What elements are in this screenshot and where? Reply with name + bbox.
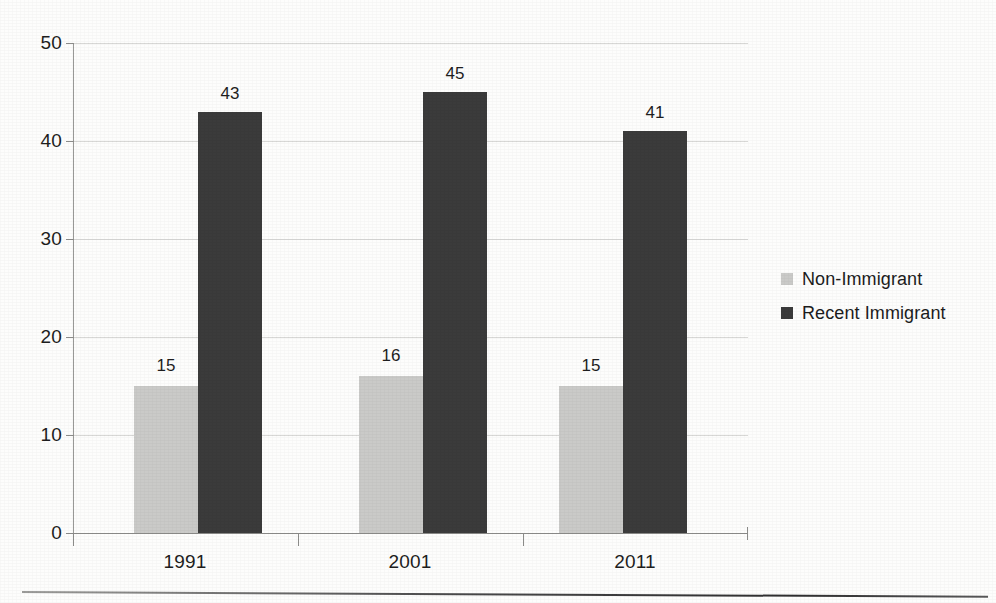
y-tick-10: [66, 435, 74, 436]
data-label-1991-non-immigrant: 15: [131, 356, 201, 376]
bar-1991-recent-immigrant: [198, 112, 262, 533]
y-axis-line: [73, 43, 74, 534]
y-tick-30: [66, 239, 74, 240]
x-axis-label-1991: 1991: [125, 551, 245, 573]
y-axis-label-40: 40: [16, 130, 62, 152]
y-tick-20: [66, 337, 74, 338]
bar-2001-non-immigrant: [359, 376, 423, 533]
bar-2011-recent-immigrant: [623, 131, 687, 533]
bar-1991-non-immigrant: [134, 386, 198, 533]
legend-swatch-icon-non-immigrant: [781, 273, 793, 285]
y-tick-40: [66, 141, 74, 142]
x-tick-right-edge: [747, 527, 748, 540]
bar-2001-recent-immigrant: [423, 92, 487, 533]
axis-baseline: [73, 533, 748, 534]
plot-area: 15 43 16 45 15 41: [73, 43, 748, 533]
x-axis-label-2001: 2001: [350, 551, 470, 573]
y-axis-label-30: 30: [16, 228, 62, 250]
x-tick-1991-2001: [298, 533, 299, 546]
legend-swatch-icon-recent-immigrant: [781, 307, 793, 319]
data-label-1991-recent-immigrant: 43: [195, 84, 265, 104]
data-label-2001-non-immigrant: 16: [356, 346, 426, 366]
data-label-2011-recent-immigrant: 41: [620, 103, 690, 123]
y-axis-label-50: 50: [16, 32, 62, 54]
x-tick-left-edge: [73, 533, 74, 546]
gridline-50: [73, 43, 748, 44]
page-divider-rule: [22, 591, 988, 598]
legend-item-recent-immigrant: Recent Immigrant: [781, 296, 986, 330]
data-label-2001-recent-immigrant: 45: [420, 64, 490, 84]
y-axis-label-10: 10: [16, 424, 62, 446]
data-label-2011-non-immigrant: 15: [556, 356, 626, 376]
y-axis-label-0: 0: [16, 522, 62, 544]
bar-2011-non-immigrant: [559, 386, 623, 533]
legend-item-non-immigrant: Non-Immigrant: [781, 262, 986, 296]
x-axis-label-2011: 2011: [575, 551, 695, 573]
x-tick-2001-2011: [523, 533, 524, 546]
y-tick-50: [66, 43, 74, 44]
bar-chart-figure: 15 43 16 45 15 41 50 40 30 20 10 0 1991 …: [0, 0, 996, 603]
y-axis-label-20: 20: [16, 326, 62, 348]
chart-legend: Non-Immigrant Recent Immigrant: [781, 262, 986, 330]
legend-label-non-immigrant: Non-Immigrant: [802, 269, 922, 290]
legend-label-recent-immigrant: Recent Immigrant: [802, 303, 946, 324]
